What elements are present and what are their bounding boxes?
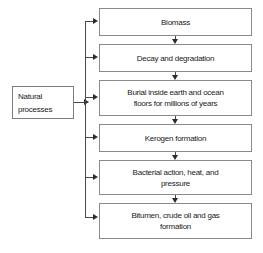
- connector-vertical-spine: [85, 21, 86, 217]
- node-natural-processes[interactable]: Natural processes: [12, 86, 74, 119]
- node-bitumen-crude-oil-and-gas-formation-label: Bitumen, crude oil and gas formation: [131, 210, 219, 232]
- node-kerogen-formation[interactable]: Kerogen formation: [99, 124, 252, 152]
- node-decay-and-degradation-label: Decay and degradation: [137, 53, 214, 64]
- arrowhead-right-icon-5: [93, 174, 98, 180]
- node-natural-processes-label: Natural processes: [18, 90, 52, 116]
- flowchart-diagram: Natural processes Biomass Decay and degr…: [0, 0, 263, 253]
- arrowhead-down-icon-3: [172, 119, 178, 124]
- node-kerogen-formation-label: Kerogen formation: [145, 133, 207, 144]
- arrowhead-right-icon-4: [93, 134, 98, 140]
- arrowhead-right-icon-1: [93, 18, 98, 24]
- node-biomass[interactable]: Biomass: [99, 8, 252, 36]
- node-burial-inside-earth-and-ocean-floors[interactable]: Burial inside earth and ocean floors for…: [99, 80, 252, 116]
- arrowhead-right-icon-6: [93, 214, 98, 220]
- node-burial-inside-earth-and-ocean-floors-label: Burial inside earth and ocean floors for…: [127, 87, 223, 109]
- arrowhead-down-icon-4: [172, 155, 178, 160]
- node-bacterial-action-heat-and-pressure-label: Bacterial action, heat, and pressure: [133, 167, 219, 189]
- arrowhead-right-icon-3: [93, 94, 98, 100]
- arrowhead-down-icon-5: [172, 198, 178, 203]
- node-bitumen-crude-oil-and-gas-formation[interactable]: Bitumen, crude oil and gas formation: [99, 203, 252, 239]
- node-biomass-label: Biomass: [161, 17, 190, 28]
- arrowhead-down-icon-2: [172, 75, 178, 80]
- arrowhead-right-icon-2: [93, 54, 98, 60]
- node-decay-and-degradation[interactable]: Decay and degradation: [99, 44, 252, 72]
- arrowhead-down-icon-1: [172, 39, 178, 44]
- node-bacterial-action-heat-and-pressure[interactable]: Bacterial action, heat, and pressure: [99, 160, 252, 195]
